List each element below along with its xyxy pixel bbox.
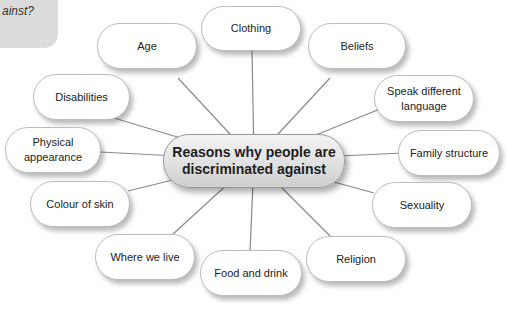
node-beliefs: Beliefs (308, 23, 406, 69)
node-label: Clothing (231, 21, 271, 36)
node-food-and-drink: Food and drink (200, 250, 302, 296)
node-colour-of-skin: Colour of skin (30, 181, 130, 227)
node-age: Age (97, 23, 197, 69)
node-label-line: language (387, 99, 461, 114)
node-label: Beliefs (340, 39, 373, 54)
node-label: Colour of skin (46, 197, 113, 212)
node-label: Age (137, 39, 157, 54)
node-label: Religion (336, 252, 376, 267)
node-disabilities: Disabilities (33, 74, 130, 120)
node-family-structure: Family structure (398, 130, 500, 176)
node-physical-appearance: Physicalappearance (5, 127, 101, 173)
central-topic-line: discriminated against (172, 161, 335, 179)
node-label-line: Speak different (387, 84, 461, 99)
node-label-line: appearance (24, 150, 82, 165)
node-label: Disabilities (55, 90, 108, 105)
node-sexuality: Sexuality (372, 182, 472, 228)
node-label: Food and drink (214, 266, 287, 281)
node-label: Where we live (110, 250, 179, 265)
node-where-we-live: Where we live (95, 234, 195, 280)
node-label: Family structure (410, 146, 488, 161)
central-topic: Reasons why people are discriminated aga… (163, 134, 345, 188)
node-label-line: Physical (24, 135, 82, 150)
node-clothing: Clothing (201, 6, 301, 51)
central-topic-line: Reasons why people are (172, 144, 335, 162)
node-speak-different-language: Speak differentlanguage (374, 75, 474, 122)
node-label: Sexuality (400, 198, 445, 213)
node-religion: Religion (306, 236, 406, 282)
